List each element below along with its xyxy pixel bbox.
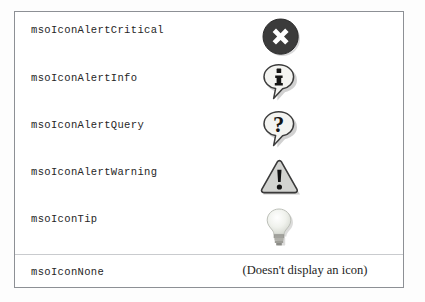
mso-icon-constants-table: msoIconAlertCritical msoIconAlertInfo: [14, 11, 404, 288]
constant-label-alert-query: msoIconAlertQuery: [31, 119, 144, 131]
constant-label-alert-info: msoIconAlertInfo: [31, 72, 137, 84]
icon-cell-alert-critical: [248, 15, 314, 63]
table-row: msoIconTip: [15, 200, 403, 247]
alert-warning-icon: [258, 156, 304, 200]
icon-cell-alert-info: [248, 60, 314, 110]
alert-info-icon: [258, 60, 304, 106]
icon-cell-tip: [248, 206, 314, 254]
table-row: msoIconNone (Doesn't display an icon): [15, 255, 403, 289]
table-row: msoIconAlertWarning: [15, 153, 403, 200]
constant-label-alert-critical: msoIconAlertCritical: [31, 24, 164, 36]
constant-label-none: msoIconNone: [31, 266, 104, 278]
table-row: msoIconAlertInfo: [15, 59, 403, 106]
constant-label-alert-warning: msoIconAlertWarning: [31, 166, 157, 178]
icon-cell-alert-warning: [248, 156, 314, 204]
alert-query-icon: ?: [258, 107, 304, 153]
table-row: msoIconAlertCritical: [15, 12, 403, 59]
alert-critical-icon: [259, 15, 303, 59]
icon-cell-alert-query: ?: [248, 107, 314, 157]
svg-text:?: ?: [273, 112, 284, 137]
no-icon-note: (Doesn't display an icon): [210, 263, 400, 278]
tip-lightbulb-icon: [261, 206, 301, 250]
constant-label-tip: msoIconTip: [31, 213, 98, 225]
table-row: msoIconAlertQuery ?: [15, 106, 403, 153]
